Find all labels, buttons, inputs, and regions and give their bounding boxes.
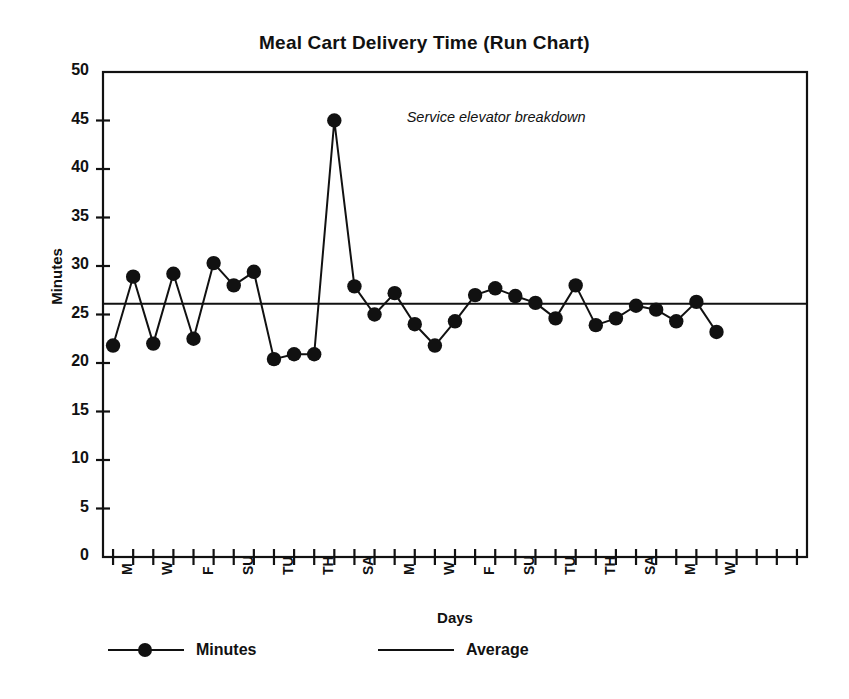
x-tick-label-20: SU xyxy=(521,556,537,575)
y-tick-45: 45 xyxy=(43,110,89,128)
x-tick-label-12: SA xyxy=(360,556,376,575)
x-tick-label-16: W xyxy=(441,562,457,575)
x-tick-label-8: TU xyxy=(280,556,296,575)
legend-item-minutes: Minutes xyxy=(108,637,256,663)
x-axis-title: Days xyxy=(103,609,807,626)
legend-marker-icon xyxy=(138,643,152,657)
x-tick-label-6: SU xyxy=(240,556,256,575)
legend-swatch-minutes xyxy=(108,640,184,660)
y-tick-50: 50 xyxy=(43,61,89,79)
chart-legend: Minutes Average xyxy=(108,637,668,667)
y-tick-15: 15 xyxy=(43,401,89,419)
x-tick-label-0: M xyxy=(119,563,135,575)
legend-line-icon xyxy=(378,649,454,651)
x-tick-label-30: W xyxy=(722,562,738,575)
x-tick-label-18: F xyxy=(481,566,497,575)
x-tick-label-4: F xyxy=(200,566,216,575)
x-tick-label-14: M xyxy=(401,563,417,575)
y-tick-0: 0 xyxy=(43,546,89,564)
annotation-service-elevator-breakdown: Service elevator breakdown xyxy=(407,109,586,125)
y-axis-title: Minutes xyxy=(48,217,65,337)
x-tick-label-2: W xyxy=(159,562,175,575)
y-tick-40: 40 xyxy=(43,158,89,176)
y-tick-10: 10 xyxy=(43,449,89,467)
legend-item-average: Average xyxy=(378,637,529,663)
legend-label-average: Average xyxy=(466,641,529,659)
legend-label-minutes: Minutes xyxy=(196,641,256,659)
y-tick-5: 5 xyxy=(43,498,89,516)
x-tick-label-28: M xyxy=(682,563,698,575)
run-chart: Meal Cart Delivery Time (Run Chart) 0510… xyxy=(0,0,849,699)
x-tick-label-26: SA xyxy=(642,556,658,575)
legend-swatch-average xyxy=(378,640,454,660)
plot-area xyxy=(0,0,849,699)
x-tick-label-24: TH xyxy=(602,556,618,575)
x-tick-label-22: TU xyxy=(562,556,578,575)
y-tick-20: 20 xyxy=(43,352,89,370)
x-tick-label-10: TH xyxy=(320,556,336,575)
